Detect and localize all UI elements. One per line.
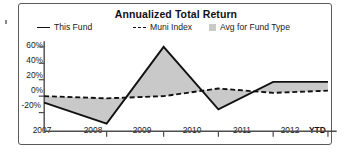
avg-fund-type-band [44,47,328,124]
speck-artifact [5,20,7,24]
chart-widget: Annualized Total Return This Fund Muni I… [0,0,344,158]
chart-plot-area [19,4,344,158]
chart-frame: Annualized Total Return This Fund Muni I… [18,3,332,145]
